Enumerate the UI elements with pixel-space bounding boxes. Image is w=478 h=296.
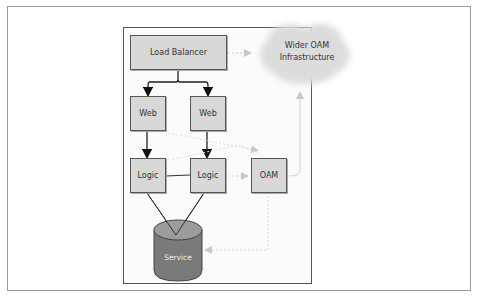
wider-oam-cloud-label: Wider OAM Infrastructure [262,40,352,64]
edge-oam-service [208,196,268,250]
service-label: Service [153,253,203,262]
cloud-label-line-1: Wider OAM [262,40,352,52]
logic-node-2: Logic [190,158,226,193]
edge-oam-cloud [289,95,300,176]
edge-web-oam [168,133,255,150]
connector-layer [0,0,478,296]
cloud-label-line-2: Infrastructure [262,52,352,64]
edge-logic1-logic2 [165,175,190,176]
oam-node: OAM [251,158,287,193]
web-node-1: Web [130,96,166,131]
load-balancer-node: Load Balancer [130,35,227,70]
logic-node-1: Logic [130,158,166,193]
web-node-2: Web [190,96,226,131]
edge-lb-web1 [148,70,178,92]
edge-lb-web2 [178,80,208,92]
service-cylinder [147,193,204,281]
